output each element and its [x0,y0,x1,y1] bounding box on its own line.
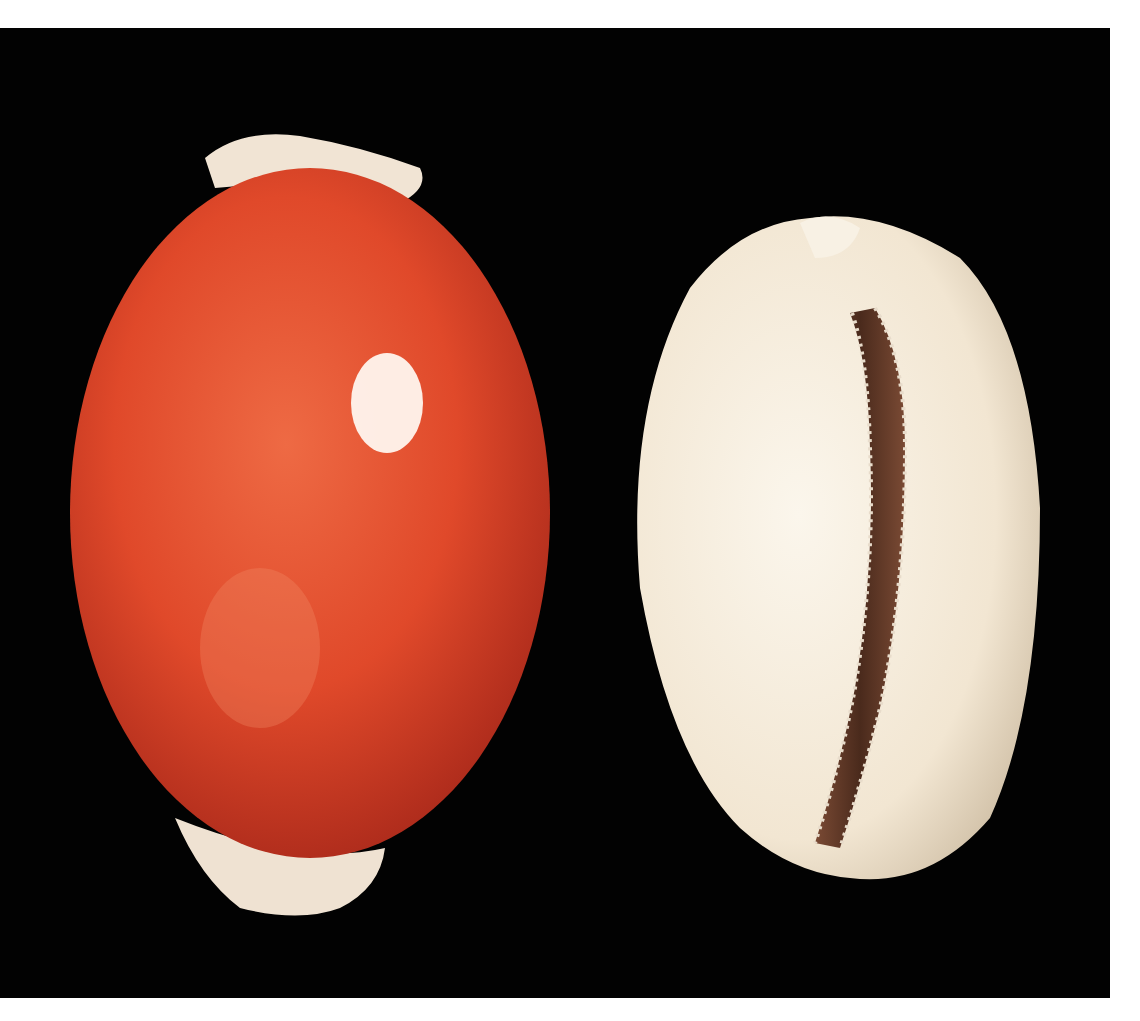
shell-photograph [0,28,1110,998]
photo-frame: Two cowrie shells on a black background [0,28,1110,998]
shell-ventral-view [637,216,1040,879]
shell-dorsal-view [70,134,550,915]
